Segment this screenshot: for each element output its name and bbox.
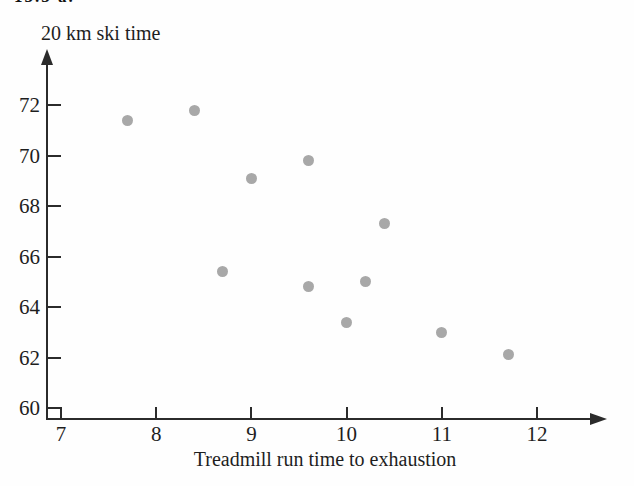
- x-tick-label: 12: [521, 423, 553, 445]
- y-tick-mark: [48, 155, 61, 157]
- scatter-point: [379, 218, 390, 229]
- y-axis-arrow-icon: [41, 49, 53, 65]
- x-tick-mark: [60, 407, 62, 419]
- x-axis-line: [46, 418, 592, 420]
- x-axis-arrow-icon: [590, 413, 607, 425]
- y-tick-label: 72: [2, 94, 40, 116]
- scatter-point: [217, 266, 228, 277]
- scatter-point: [303, 155, 314, 166]
- scatter-point: [246, 173, 257, 184]
- x-tick-mark: [155, 407, 157, 419]
- y-axis-line: [46, 62, 48, 420]
- y-tick-mark: [48, 256, 61, 258]
- x-tick-label: 7: [45, 423, 77, 445]
- y-tick-label: 66: [2, 246, 40, 268]
- y-tick-mark: [48, 357, 61, 359]
- x-tick-label: 11: [426, 423, 458, 445]
- y-tick-mark: [48, 205, 61, 207]
- y-tick-mark: [48, 104, 61, 106]
- figure-number-label: 13.3 a.: [14, 0, 75, 7]
- scatter-point: [303, 281, 314, 292]
- y-tick-label: 64: [2, 296, 40, 318]
- y-tick-label: 68: [2, 195, 40, 217]
- scatter-point: [503, 349, 514, 360]
- x-tick-mark: [536, 407, 538, 419]
- y-tick-label: 60: [2, 397, 40, 419]
- x-tick-mark: [250, 407, 252, 419]
- y-tick-label: 70: [2, 145, 40, 167]
- x-axis-title: Treadmill run time to exhaustion: [120, 448, 530, 471]
- y-tick-label: 62: [2, 347, 40, 369]
- y-axis-title: 20 km ski time: [41, 22, 160, 45]
- y-tick-mark: [48, 306, 61, 308]
- x-tick-label: 8: [140, 423, 172, 445]
- scatter-point: [341, 317, 352, 328]
- scatter-point: [122, 115, 133, 126]
- x-tick-label: 9: [235, 423, 267, 445]
- scatterplot-figure: 13.3 a. 20 km ski time 60626466687072789…: [0, 0, 634, 486]
- scatter-point: [436, 327, 447, 338]
- x-tick-mark: [441, 407, 443, 419]
- scatter-point: [189, 105, 200, 116]
- x-tick-label: 10: [331, 423, 363, 445]
- x-tick-mark: [346, 407, 348, 419]
- scatter-point: [360, 276, 371, 287]
